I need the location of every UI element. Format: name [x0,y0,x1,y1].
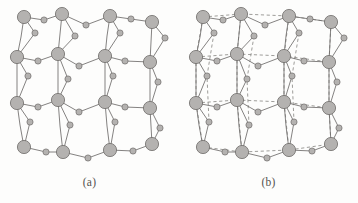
panel-b-caption: (b) [179,176,358,188]
large-sphere [17,10,30,23]
large-sphere [143,101,156,114]
large-sphere [322,101,335,114]
small-sphere [32,30,38,36]
lattice-svg-b [179,0,358,203]
large-sphere [17,140,30,153]
large-sphere [55,7,68,20]
small-sphere [246,122,252,128]
small-sphere [128,16,134,22]
small-sphere [67,122,73,128]
small-sphere [309,148,315,154]
small-sphere [255,109,261,115]
large-sphere [145,137,158,150]
small-sphere [117,30,123,36]
bond-group-a [17,14,165,158]
large-sphere [277,49,290,62]
small-sphere [251,33,257,39]
small-sphere [291,119,297,125]
panel-a-caption: (a) [0,176,179,188]
small-sphere [220,17,226,23]
small-sphere [65,76,71,82]
small-sphere [27,119,33,125]
small-sphere [206,119,212,125]
large-sphere [277,95,290,108]
small-sphere [122,58,128,64]
large-sphere [103,9,116,22]
large-sphere [322,55,335,68]
large-sphere [51,47,64,60]
large-sphere [282,143,295,156]
lattice-svg-a [0,0,179,203]
small-sphere [204,73,210,79]
small-sphere [157,125,163,131]
large-sphere [145,15,158,28]
small-sphere [222,149,228,155]
small-sphere [76,63,82,69]
large-sphere [230,93,243,106]
small-sphere [155,79,161,85]
small-sphere [83,22,89,28]
small-sphere [85,155,91,161]
large-sphere [189,50,202,63]
small-sphere [211,30,217,36]
small-sphere [262,22,268,28]
small-sphere [43,149,49,155]
large-sphere [196,140,209,153]
small-sphere [301,104,307,110]
small-sphere [110,73,116,79]
small-sphere [214,104,220,110]
large-sphere [10,50,23,63]
small-sphere [336,125,342,131]
small-sphere [76,109,82,115]
small-sphere [264,155,270,161]
small-sphere [162,35,168,41]
large-sphere [10,96,23,109]
small-sphere [334,79,340,85]
small-sphere [214,58,220,64]
panel-b: (b) [179,0,358,203]
large-sphere [143,55,156,68]
small-sphere [122,104,128,110]
large-sphere [56,145,69,158]
large-sphere [196,10,209,23]
small-sphere [307,16,313,22]
large-sphere [98,49,111,62]
large-sphere [324,15,337,28]
large-sphere [282,9,295,22]
atom-group-b [189,7,347,161]
small-sphere [244,76,250,82]
large-sphere [230,47,243,60]
large-sphere [51,93,64,106]
small-sphere [255,63,261,69]
small-sphere [296,30,302,36]
small-sphere [289,73,295,79]
small-sphere [35,104,41,110]
small-sphere [41,17,47,23]
large-sphere [98,95,111,108]
small-sphere [301,58,307,64]
small-sphere [72,33,78,39]
large-sphere [324,137,337,150]
crystal-lattice-figure: (a) [0,0,358,203]
large-sphere [189,96,202,109]
large-sphere [234,7,247,20]
panel-a: (a) [0,0,179,203]
atom-group-a [10,7,168,161]
small-sphere [35,58,41,64]
small-sphere [341,35,347,41]
bond-group-b [196,14,344,158]
small-sphere [112,119,118,125]
large-sphere [103,143,116,156]
large-sphere [235,145,248,158]
small-sphere [130,148,136,154]
small-sphere [25,73,31,79]
